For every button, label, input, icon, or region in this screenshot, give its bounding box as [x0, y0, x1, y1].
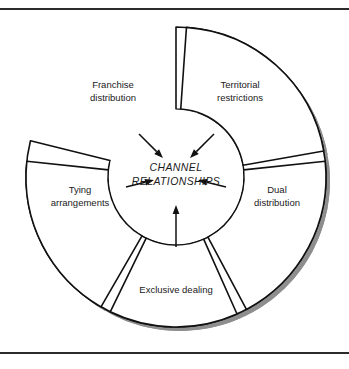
figure-root: FranchisedistributionTerritorialrestrict…	[0, 0, 349, 369]
channel-relationships-diagram: FranchisedistributionTerritorialrestrict…	[0, 0, 349, 369]
segment-label-franchise-distribution: Franchisedistribution	[90, 79, 136, 103]
segment-label-exclusive-dealing: Exclusive dealing	[139, 284, 212, 295]
